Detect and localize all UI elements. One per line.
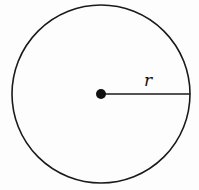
- center-point: [96, 89, 106, 99]
- radius-label: r: [144, 70, 152, 90]
- circle-diagram: [0, 0, 199, 190]
